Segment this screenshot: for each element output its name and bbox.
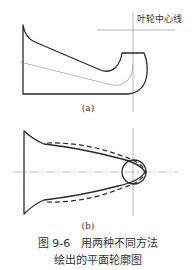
- figure-b: (b): [13, 128, 178, 231]
- diagram-canvas: 叶轮中心线 (a) (b) 图 9-6 用两种不同方法 绘出的平面轮廓图: [0, 0, 196, 270]
- profile-outline-b: [24, 131, 145, 214]
- caption-line-2: 绘出的平面轮廓图: [54, 253, 142, 267]
- mean-streamline-a: [20, 62, 133, 85]
- centerline-annotation: 叶轮中心线: [137, 13, 182, 24]
- sublabel-b: (b): [82, 221, 95, 231]
- sublabel-a: (a): [82, 103, 94, 113]
- caption-line-1: 图 9-6 用两种不同方法: [38, 236, 158, 250]
- dashed-profile-upper: [47, 143, 146, 172]
- figure-a: 叶轮中心线 (a): [20, 12, 182, 113]
- profile-outline-a: [23, 25, 147, 94]
